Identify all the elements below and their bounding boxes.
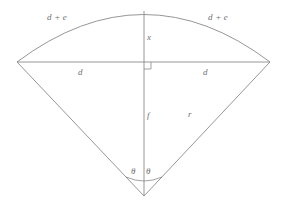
right-angle-marker: [144, 62, 151, 69]
label-apothem-f: f: [147, 111, 150, 120]
right-radius-line: [144, 62, 270, 196]
label-angle-theta-right: θ: [146, 167, 151, 176]
geometry-diagram: d + e d + e x d d f r θ θ: [0, 0, 287, 202]
left-radius-line: [17, 62, 144, 196]
label-half-chord-right-d: d: [203, 68, 208, 77]
label-arc-left: d + e: [47, 13, 67, 22]
label-sagitta-x: x: [147, 33, 151, 42]
label-radius-r: r: [188, 110, 192, 119]
diagram-canvas: [0, 0, 287, 202]
label-half-chord-left-d: d: [78, 68, 83, 77]
label-angle-theta-left: θ: [131, 167, 136, 176]
label-arc-right: d + e: [208, 13, 228, 22]
